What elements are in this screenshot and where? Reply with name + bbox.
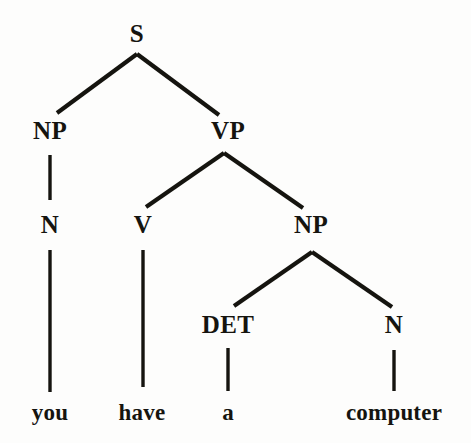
edge-np2-to-n [312,252,392,307]
edge-np2-to-det [234,252,312,306]
edge-s-to-vp [137,54,219,115]
category-node-group: S NP VP N V NP DET N [33,20,403,338]
edge-s-to-np [57,54,137,113]
edge-vp-to-np [224,153,303,208]
node-s: S [130,20,144,47]
edge-vp-to-v [146,153,224,207]
branch-group [50,54,394,392]
node-v: V [134,211,152,238]
node-np-subject: NP [33,117,67,144]
node-n-object: N [385,311,403,338]
word-you: you [32,400,68,425]
node-det: DET [202,311,255,338]
node-vp: VP [211,117,245,144]
node-np-object: NP [294,211,328,238]
word-a: a [222,400,234,425]
syntax-tree-figure: S NP VP N V NP DET N you have a computer [0,0,471,443]
word-computer: computer [346,400,442,425]
word-have: have [119,400,166,425]
terminal-word-group: you have a computer [32,400,442,425]
node-n-subject: N [41,211,59,238]
syntax-tree-canvas: S NP VP N V NP DET N you have a computer [0,0,471,443]
